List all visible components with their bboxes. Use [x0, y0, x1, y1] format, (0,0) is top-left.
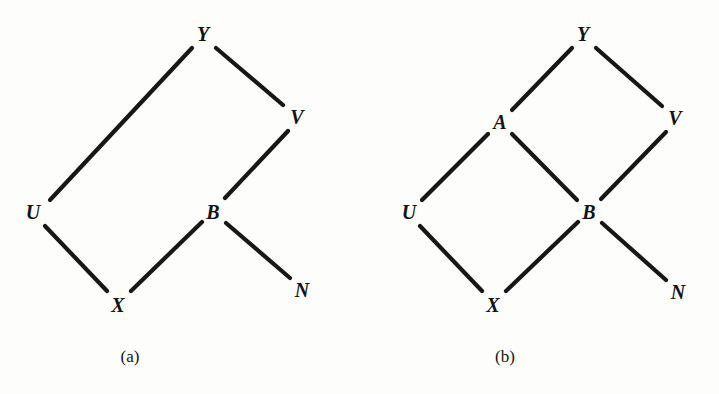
edge-u-x [420, 226, 482, 291]
node-label-n: N [295, 280, 309, 300]
edge-u-y [50, 48, 192, 200]
node-label-b: B [582, 202, 595, 222]
edge-a-y [512, 48, 572, 110]
node-label-y: Y [197, 24, 209, 44]
edge-x-b [506, 222, 578, 291]
edge-a-b [512, 134, 577, 200]
edges-group-b [360, 0, 719, 394]
node-label-x: X [111, 295, 124, 315]
node-label-a: A [493, 112, 506, 132]
node-label-y: Y [577, 24, 589, 44]
node-label-n: N [671, 282, 685, 302]
node-label-u: U [402, 202, 416, 222]
node-label-u: U [26, 202, 40, 222]
edge-v-b [225, 131, 288, 198]
lattice-diagram-b: YAVUBXN (b) [360, 0, 719, 394]
edge-x-b [131, 222, 202, 291]
edge-b-n [226, 223, 290, 278]
panel-caption-b: (b) [495, 347, 515, 367]
edge-y-v [216, 48, 283, 105]
edge-u-x [45, 226, 107, 291]
node-label-x: X [486, 295, 499, 315]
panel-caption-a: (a) [121, 347, 140, 367]
edge-u-a [422, 134, 488, 200]
edge-b-n [602, 223, 666, 280]
node-label-v: V [290, 107, 303, 127]
lattice-diagram-a: YVUBXN (a) [0, 0, 360, 394]
figure-root: YVUBXN (a) YAVUBXN (b) [0, 0, 719, 394]
node-label-b: B [206, 202, 219, 222]
edge-y-v [596, 48, 662, 106]
node-label-v: V [668, 108, 681, 128]
edges-group-a [0, 0, 360, 394]
edge-v-b [601, 132, 666, 199]
